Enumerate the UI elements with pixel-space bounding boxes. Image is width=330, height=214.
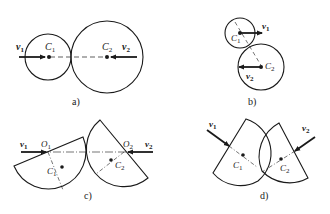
c1-label: C1 bbox=[47, 166, 57, 178]
center-of-mass-1-dot bbox=[60, 165, 64, 169]
v2-label: v2 bbox=[302, 123, 310, 135]
figure-b: v1 C1 C2 v2 b) bbox=[225, 18, 284, 108]
body-1-sector bbox=[213, 119, 271, 186]
v1-label: v1 bbox=[20, 139, 28, 151]
c2-label: C2 bbox=[115, 160, 125, 172]
v1-label: v1 bbox=[16, 41, 24, 54]
caption-c: c) bbox=[84, 190, 92, 202]
center-of-mass-2-dot bbox=[259, 65, 263, 69]
figure-c: v1 O1 C1 O2 C2 v2 c) bbox=[14, 120, 153, 202]
c1-label: C1 bbox=[233, 160, 243, 172]
c2-label: C2 bbox=[102, 41, 113, 54]
caption-b: b) bbox=[248, 96, 256, 108]
c2-label: C2 bbox=[265, 61, 275, 73]
v2-label: v2 bbox=[246, 71, 254, 83]
center-of-mass-1-dot bbox=[241, 153, 245, 157]
center-of-mass-1-dot bbox=[238, 31, 242, 35]
c2-label: C2 bbox=[280, 163, 290, 175]
v2-label: v2 bbox=[122, 41, 130, 54]
collision-diagram: v1 C1 C2 v2 a) v1 C1 C2 v2 b) v1 O1 C1 bbox=[0, 0, 330, 214]
figure-a: v1 C1 C2 v2 a) bbox=[16, 21, 143, 108]
figure-d: v1 C1 C2 v2 d) bbox=[207, 119, 315, 202]
v1-label: v1 bbox=[209, 119, 217, 131]
center-of-mass-2-dot bbox=[279, 157, 283, 161]
caption-d: d) bbox=[260, 190, 268, 202]
body-2-half-disk bbox=[86, 120, 148, 187]
v2-label: v2 bbox=[145, 139, 153, 151]
center-of-mass-2-dot bbox=[105, 55, 109, 59]
body-2-axis bbox=[262, 151, 295, 172]
caption-a: a) bbox=[72, 96, 80, 108]
center-of-mass-2-dot bbox=[109, 158, 113, 162]
velocity-1-arrow bbox=[207, 130, 229, 146]
v1-label: v1 bbox=[262, 21, 270, 33]
velocity-2-arrow bbox=[295, 137, 315, 151]
body-2-sector bbox=[259, 123, 308, 183]
c1-label: C1 bbox=[45, 41, 56, 54]
center-of-mass-1-dot bbox=[47, 55, 51, 59]
o1-label: O1 bbox=[41, 139, 52, 151]
